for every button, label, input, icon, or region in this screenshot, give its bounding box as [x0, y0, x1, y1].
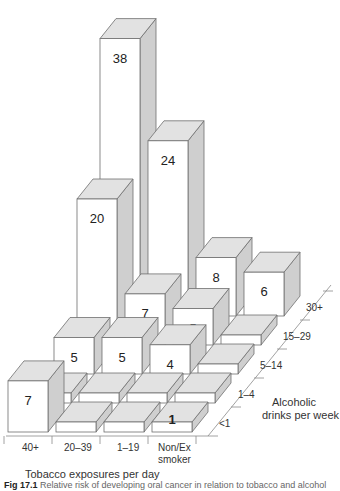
figure-caption: Fig 17.1 Relative risk of developing ora…	[4, 480, 326, 490]
y-axis-title-line1: Alcoholic	[272, 396, 317, 408]
x-tick-40plus: 40+	[22, 442, 39, 453]
bar-value-label: 8	[212, 270, 219, 285]
bar-front-face	[79, 393, 119, 403]
bar-value-label: 20	[90, 211, 104, 226]
x-axis-title: Tobacco exposures per day	[25, 468, 160, 480]
x-tick-20-39: 20–39	[64, 442, 92, 453]
bar-front-face	[198, 364, 238, 374]
bar-value-label: 5	[70, 350, 77, 365]
bar-value-label: 7	[24, 393, 31, 408]
bar-value-label: 38	[113, 51, 127, 66]
bar: 7	[8, 361, 64, 432]
bar-group: 382486207555471	[8, 19, 300, 432]
y-tick-30plus: 30+	[306, 302, 323, 313]
3d-bar-chart: 382486207555471 40+ 20–39 1–19 Non/Ex sm…	[0, 0, 340, 491]
bar-front-face	[56, 422, 96, 432]
bar-value-label: 6	[260, 284, 267, 299]
bar-value-label: 1	[168, 412, 175, 427]
bar-value-label: 24	[161, 153, 175, 168]
x-tick-smoker: smoker	[158, 454, 191, 465]
y-tick-1-4: 1–4	[238, 389, 255, 400]
y-tick-15-29: 15–29	[283, 331, 311, 342]
bar-front-face	[127, 393, 167, 403]
bar-value-label: 5	[118, 350, 125, 365]
bar-front-face	[221, 335, 261, 345]
y-tick-5-14: 5–14	[260, 360, 283, 371]
bar-front-face	[104, 422, 144, 432]
figure-caption-text: Relative risk of developing oral cancer …	[40, 480, 326, 490]
x-tick-1-19: 1–19	[117, 442, 140, 453]
y-tick-lt1: <1	[219, 418, 231, 429]
bar-front-face	[175, 393, 215, 403]
bar: 6	[244, 252, 300, 316]
x-tick-non-ex: Non/Ex	[158, 442, 191, 453]
figure-caption-prefix: Fig 17.1	[4, 480, 38, 490]
y-axis-title-line2: drinks per week	[262, 409, 340, 421]
bar-value-label: 4	[166, 357, 173, 372]
